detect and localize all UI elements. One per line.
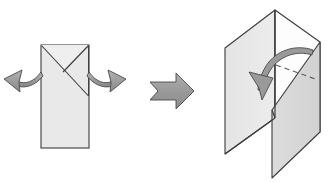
- open-right-arrow: [87, 70, 126, 92]
- open-right-arrow-head: [108, 70, 126, 92]
- origami-illustration: Origami fold step: open flat square-base…: [0, 0, 336, 183]
- flat-rectangle-figure: [41, 45, 89, 148]
- open-left-arrow: [4, 70, 43, 92]
- open-left-arrow-head: [4, 70, 22, 92]
- step-arrow: [150, 73, 194, 109]
- origami-diagram: Origami fold step: open flat square-base…: [0, 0, 336, 183]
- three-dimensional-figure: [225, 10, 320, 178]
- step-arrow-shape: [150, 73, 194, 109]
